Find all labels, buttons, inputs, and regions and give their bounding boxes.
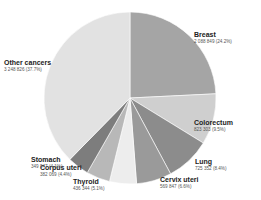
slice-label-name: Lung [195, 158, 212, 166]
slice-label-value: 349 947 (4.1%) [31, 164, 63, 169]
slice-label-value: 569 847 (6.6%) [160, 184, 192, 189]
pie-chart: Breast2 088 849 (24.2%)Colorectum823 303… [0, 0, 261, 200]
slice-label-name: Breast [194, 31, 216, 38]
slice-label-value: 823 303 (9.5%) [194, 127, 226, 132]
slice-label-name: Stomach [31, 156, 61, 163]
slice-label-value: 725 352 (8.4%) [195, 166, 227, 171]
slice-label-value: 436 344 (5.1%) [73, 186, 105, 191]
pie-slice-breast [130, 12, 216, 98]
slice-label-value: 2 088 849 (24.2%) [194, 39, 232, 44]
slice-label-name: Cervix uteri [160, 176, 199, 183]
slice-label-name: Colorectum [194, 119, 233, 126]
slice-label-value: 3 248 826 (37.7%) [4, 67, 42, 72]
slice-label-name: Other cancers [4, 59, 51, 66]
slice-label-value: 382 069 (4.4%) [40, 172, 72, 177]
slice-label-name: Thyroid [73, 178, 99, 186]
pie-slices [44, 12, 216, 184]
